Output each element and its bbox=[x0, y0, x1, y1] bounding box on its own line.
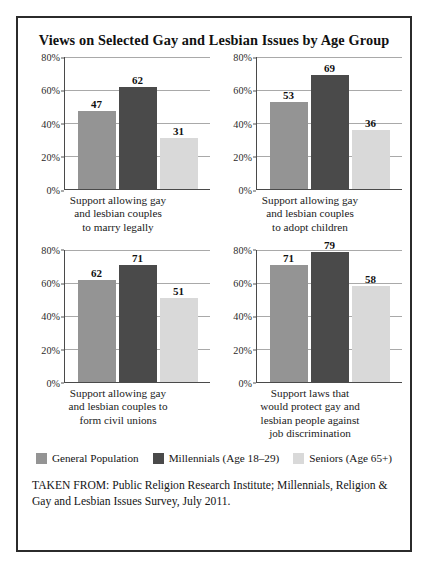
bar-general-population[interactable]: 53 bbox=[270, 102, 308, 189]
y-tick-80: 80% bbox=[41, 244, 60, 255]
bar-value: 36 bbox=[352, 117, 390, 129]
bar-general-population[interactable]: 47 bbox=[78, 111, 116, 189]
figure-title: Views on Selected Gay and Lesbian Issues… bbox=[28, 32, 400, 49]
bar-slot: 47 bbox=[76, 57, 117, 189]
bar-value: 69 bbox=[311, 62, 349, 74]
y-tick-0: 0% bbox=[46, 185, 60, 196]
bar-millennials[interactable]: 71 bbox=[119, 265, 157, 382]
y-tick-60: 60% bbox=[41, 278, 60, 289]
bar-slot: 62 bbox=[76, 250, 117, 382]
y-tick-20: 20% bbox=[41, 151, 60, 162]
chart-panel-job-discrimination: 0% 20% 40% 60% 80% 71 bbox=[214, 248, 406, 440]
bar-slot: 62 bbox=[117, 57, 158, 189]
bar-millennials[interactable]: 69 bbox=[311, 75, 349, 189]
chart-panel-marry-legally: 0% 20% 40% 60% 80% 47 bbox=[22, 55, 214, 234]
y-tick-80: 80% bbox=[233, 244, 252, 255]
bar-slot: 58 bbox=[350, 250, 391, 382]
bar-value: 71 bbox=[119, 252, 157, 264]
y-axis: 0% 20% 40% 60% 80% bbox=[218, 57, 256, 190]
caption-line: and lesbian couples bbox=[226, 207, 394, 220]
bar-general-population[interactable]: 62 bbox=[78, 280, 116, 382]
bar-value: 58 bbox=[352, 273, 390, 285]
caption-line: form civil unions bbox=[34, 414, 202, 427]
legend-label: Millennials (Age 18–29) bbox=[169, 452, 280, 464]
panel-caption: Support allowing gay and lesbian couples… bbox=[226, 194, 394, 234]
bar-general-population[interactable]: 71 bbox=[270, 265, 308, 382]
plot-row: 0% 20% 40% 60% 80% 62 bbox=[26, 250, 210, 383]
source-note: TAKEN FROM: Public Religion Research Ins… bbox=[32, 478, 396, 509]
y-tick-0: 0% bbox=[46, 377, 60, 388]
bar-slot: 71 bbox=[268, 250, 309, 382]
bar-group: 71 79 58 bbox=[257, 250, 402, 382]
bar-seniors[interactable]: 36 bbox=[352, 130, 390, 189]
bar-group: 47 62 31 bbox=[65, 57, 210, 189]
y-axis: 0% 20% 40% 60% 80% bbox=[26, 57, 64, 190]
plot-area: 47 62 31 bbox=[64, 57, 210, 190]
figure-frame: Views on Selected Gay and Lesbian Issues… bbox=[16, 16, 412, 552]
chart-panel-grid: 0% 20% 40% 60% 80% 47 bbox=[22, 55, 406, 440]
y-tick-60: 60% bbox=[233, 278, 252, 289]
plot-area: 53 69 36 bbox=[256, 57, 402, 190]
y-tick-40: 40% bbox=[233, 118, 252, 129]
bar-slot: 36 bbox=[350, 57, 391, 189]
legend-item-seniors: Seniors (Age 65+) bbox=[293, 452, 392, 464]
caption-line: Support allowing gay bbox=[34, 387, 202, 400]
legend-swatch-icon bbox=[153, 453, 164, 464]
chart-panel-civil-unions: 0% 20% 40% 60% 80% 62 bbox=[22, 248, 214, 440]
panel-caption: Support allowing gay and lesbian couples… bbox=[34, 387, 202, 427]
bar-slot: 51 bbox=[158, 250, 199, 382]
plot-area: 62 71 51 bbox=[64, 250, 210, 383]
caption-line: job discrimination bbox=[226, 427, 394, 440]
y-tick-60: 60% bbox=[41, 85, 60, 96]
plot-row: 0% 20% 40% 60% 80% 53 bbox=[218, 57, 402, 190]
panel-caption: Support allowing gay and lesbian couples… bbox=[34, 194, 202, 234]
legend-label: Seniors (Age 65+) bbox=[309, 452, 392, 464]
bar-value: 51 bbox=[160, 285, 198, 297]
bar-slot: 79 bbox=[309, 250, 350, 382]
chart-legend: General Population Millennials (Age 18–2… bbox=[18, 452, 410, 464]
y-tick-20: 20% bbox=[233, 151, 252, 162]
bar-value: 71 bbox=[270, 252, 308, 264]
caption-line: and lesbian couples to bbox=[34, 400, 202, 413]
y-tick-40: 40% bbox=[41, 118, 60, 129]
bar-millennials[interactable]: 79 bbox=[311, 252, 349, 382]
bar-value: 62 bbox=[78, 267, 116, 279]
y-tick-0: 0% bbox=[238, 377, 252, 388]
legend-item-millennials: Millennials (Age 18–29) bbox=[153, 452, 280, 464]
legend-item-general-population: General Population bbox=[36, 452, 139, 464]
caption-line: to adopt children bbox=[226, 221, 394, 234]
bar-seniors[interactable]: 51 bbox=[160, 298, 198, 382]
y-tick-80: 80% bbox=[233, 52, 252, 63]
y-tick-40: 40% bbox=[41, 311, 60, 322]
y-tick-20: 20% bbox=[233, 344, 252, 355]
legend-label: General Population bbox=[52, 452, 139, 464]
y-axis: 0% 20% 40% 60% 80% bbox=[26, 250, 64, 383]
y-tick-20: 20% bbox=[41, 344, 60, 355]
bar-value: 47 bbox=[78, 98, 116, 110]
bar-group: 53 69 36 bbox=[257, 57, 402, 189]
caption-line: Support allowing gay bbox=[226, 194, 394, 207]
y-tick-40: 40% bbox=[233, 311, 252, 322]
bar-seniors[interactable]: 58 bbox=[352, 286, 390, 382]
caption-line: would protect gay and bbox=[226, 400, 394, 413]
plot-row: 0% 20% 40% 60% 80% 71 bbox=[218, 250, 402, 383]
bar-seniors[interactable]: 31 bbox=[160, 138, 198, 189]
bar-millennials[interactable]: 62 bbox=[119, 87, 157, 189]
plot-row: 0% 20% 40% 60% 80% 47 bbox=[26, 57, 210, 190]
y-tick-80: 80% bbox=[41, 52, 60, 63]
legend-swatch-icon bbox=[293, 453, 304, 464]
bar-slot: 31 bbox=[158, 57, 199, 189]
y-tick-60: 60% bbox=[233, 85, 252, 96]
chart-panel-adopt-children: 0% 20% 40% 60% 80% 53 bbox=[214, 55, 406, 234]
caption-line: to marry legally bbox=[34, 221, 202, 234]
bar-value: 53 bbox=[270, 89, 308, 101]
panel-caption: Support laws that would protect gay and … bbox=[226, 387, 394, 440]
y-axis: 0% 20% 40% 60% 80% bbox=[218, 250, 256, 383]
y-tick-0: 0% bbox=[238, 185, 252, 196]
bar-value: 31 bbox=[160, 125, 198, 137]
bar-value: 79 bbox=[311, 239, 349, 251]
bar-slot: 71 bbox=[117, 250, 158, 382]
caption-line: Support laws that bbox=[226, 387, 394, 400]
bar-value: 62 bbox=[119, 74, 157, 86]
caption-line: lesbian people against bbox=[226, 414, 394, 427]
